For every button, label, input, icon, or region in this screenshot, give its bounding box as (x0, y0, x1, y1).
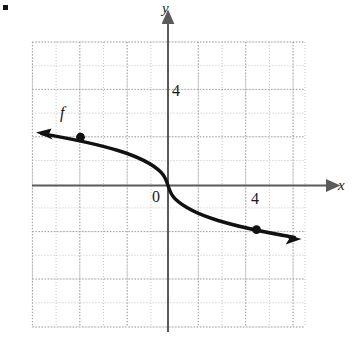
y-axis-tick-label-4: 4 (172, 82, 180, 100)
point-marker (76, 133, 85, 142)
x-axis-tick-label-4: 4 (251, 190, 259, 208)
x-axis-label: x (338, 177, 345, 194)
axes (32, 22, 328, 332)
graph-figure (0, 0, 359, 352)
curve-label-f: f (60, 104, 64, 122)
y-axis-label: y (162, 0, 169, 17)
point-marker (252, 225, 261, 234)
origin-label: 0 (152, 188, 160, 206)
